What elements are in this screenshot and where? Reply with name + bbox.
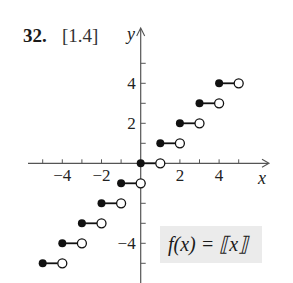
- closed-endpoint-icon: [215, 79, 223, 87]
- open-endpoint-icon: [58, 259, 67, 268]
- open-endpoint-icon: [136, 179, 145, 188]
- closed-endpoint-icon: [196, 99, 204, 107]
- y-tick-label: −4: [118, 234, 137, 253]
- step-segment: [117, 179, 145, 188]
- closed-endpoint-icon: [58, 239, 66, 247]
- step-segment: [196, 99, 224, 108]
- step-segment: [215, 79, 243, 88]
- step-segment: [98, 199, 126, 208]
- open-endpoint-icon: [77, 239, 86, 248]
- x-tick-label: −4: [53, 166, 72, 185]
- closed-endpoint-icon: [98, 199, 106, 207]
- closed-endpoint-icon: [156, 139, 164, 147]
- closed-endpoint-icon: [117, 179, 125, 187]
- x-tick-label: 4: [215, 166, 224, 185]
- open-endpoint-icon: [175, 139, 184, 148]
- x-tick-label: −2: [92, 166, 110, 185]
- y-axis-label: y: [125, 24, 135, 44]
- open-endpoint-icon: [234, 79, 243, 88]
- closed-endpoint-icon: [137, 159, 145, 167]
- step-segment: [39, 259, 67, 268]
- y-tick-label: 2: [127, 114, 136, 133]
- step-segment: [78, 219, 106, 228]
- tick-labels: −4−22442−4xy: [53, 24, 266, 253]
- x-axis-label: x: [257, 168, 266, 188]
- x-tick-label: 2: [176, 166, 185, 185]
- open-endpoint-icon: [215, 99, 224, 108]
- closed-endpoint-icon: [78, 219, 86, 227]
- step-segment: [176, 119, 204, 128]
- y-tick-label: 4: [127, 74, 136, 93]
- open-endpoint-icon: [97, 219, 106, 228]
- open-endpoint-icon: [156, 159, 165, 168]
- open-endpoint-icon: [117, 199, 126, 208]
- step-segment: [58, 239, 86, 248]
- open-endpoint-icon: [195, 119, 204, 128]
- step-segment: [137, 159, 165, 168]
- closed-endpoint-icon: [39, 259, 47, 267]
- step-segment: [156, 139, 184, 148]
- step-function-plot: −4−22442−4xy: [0, 0, 293, 283]
- closed-endpoint-icon: [176, 119, 184, 127]
